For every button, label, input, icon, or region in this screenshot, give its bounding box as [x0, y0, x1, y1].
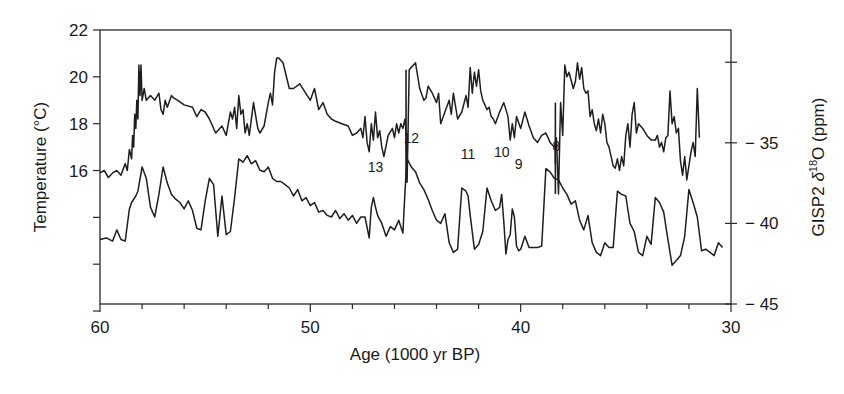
- interstadial-label-8: 8: [553, 138, 561, 154]
- d18o-line: [100, 156, 723, 266]
- right-tick-label: − 35: [745, 134, 779, 153]
- left-tick-label: 16: [69, 162, 88, 181]
- left-axis-title: Temperature (°C): [31, 102, 50, 233]
- chart-svg: 22201816 − 35− 40− 45 60504030 131211109…: [0, 0, 844, 394]
- right-tick-label: − 40: [745, 214, 779, 233]
- plot-area-border: [100, 30, 731, 304]
- x-axis-ticks: 60504030: [91, 304, 741, 337]
- interstadial-label-12: 12: [404, 130, 420, 146]
- x-tick-label: 60: [91, 318, 110, 337]
- right-axis-title-superscript: 18: [807, 160, 819, 172]
- right-axis-title: GISP2 δ18O (ppm): [807, 98, 828, 237]
- left-tick-label: 22: [69, 21, 88, 40]
- left-axis-ticks: 22201816: [69, 21, 100, 311]
- x-tick-label: 30: [722, 318, 741, 337]
- x-tick-label: 40: [511, 318, 530, 337]
- right-axis-title-tail: O (ppm): [809, 98, 828, 160]
- right-axis-ticks: − 35− 40− 45: [725, 62, 779, 314]
- x-tick-label: 50: [301, 318, 320, 337]
- temperature-line: [100, 58, 699, 194]
- x-axis-title: Age (1000 yr BP): [350, 345, 480, 364]
- interstadial-label-9: 9: [515, 156, 523, 172]
- right-axis-title-main: GISP2: [809, 182, 828, 237]
- left-tick-label: 18: [69, 115, 88, 134]
- series-layer: [100, 58, 723, 265]
- interstadial-label-13: 13: [368, 159, 384, 175]
- interstadial-label-11: 11: [461, 146, 476, 162]
- right-tick-label: − 45: [745, 295, 779, 314]
- event-annotations: 1312111098: [368, 130, 561, 175]
- plot-frame: [100, 30, 731, 304]
- interstadial-label-10: 10: [494, 144, 510, 160]
- left-tick-label: 20: [69, 68, 88, 87]
